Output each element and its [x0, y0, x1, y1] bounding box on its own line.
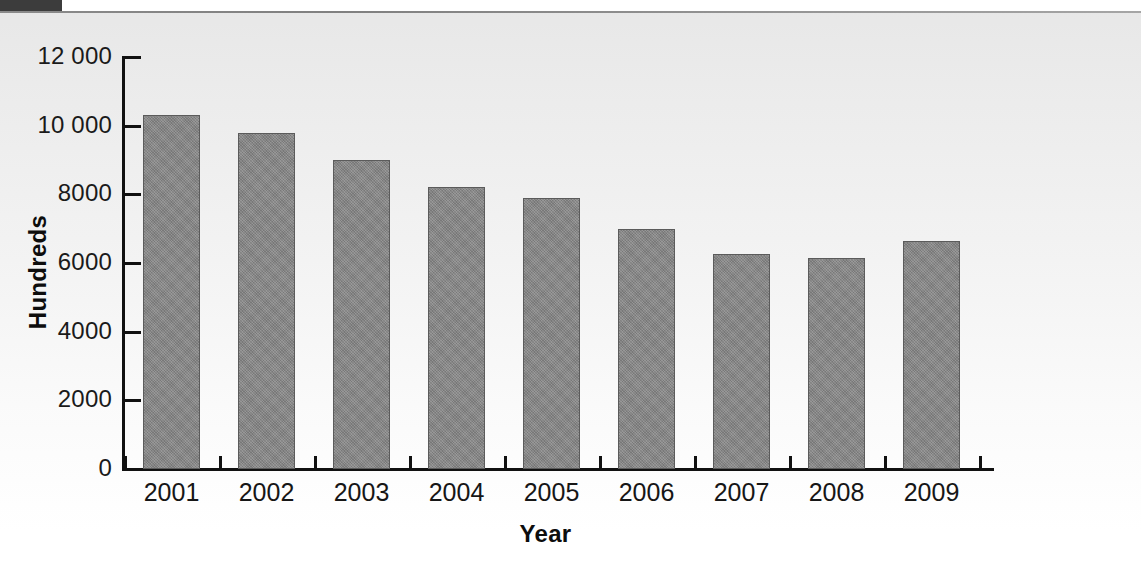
bar — [808, 258, 865, 469]
x-axis-tick — [314, 456, 317, 469]
bar-chart-plot: 0200040006000800010 00012 000 2001200220… — [0, 0, 1141, 577]
y-axis-tick — [125, 125, 141, 128]
bar — [428, 187, 485, 469]
x-axis-tick — [694, 456, 697, 469]
y-axis-tick — [125, 468, 141, 471]
y-axis-tick — [125, 56, 141, 59]
bar — [523, 198, 580, 469]
x-axis-tick — [884, 456, 887, 469]
y-axis-tick-label: 2000 — [12, 385, 112, 413]
bar — [618, 229, 675, 469]
y-axis-tick-label: 10 000 — [12, 111, 112, 139]
y-axis-tick — [125, 262, 141, 265]
x-axis-tick — [979, 456, 982, 469]
y-axis-title: Hundreds — [24, 172, 52, 372]
x-axis-tick — [599, 456, 602, 469]
chart-page: 0200040006000800010 00012 000 2001200220… — [0, 0, 1141, 577]
bar — [333, 160, 390, 469]
y-axis-tick — [125, 193, 141, 196]
y-axis-tick — [125, 331, 141, 334]
x-axis-title-text: Year — [520, 520, 572, 548]
x-axis-tick-label: 2009 — [872, 478, 992, 507]
bar — [238, 133, 295, 469]
y-axis-tick — [125, 399, 141, 402]
x-axis-tick — [789, 456, 792, 469]
x-axis-tick — [219, 456, 222, 469]
x-axis-tick — [409, 456, 412, 469]
bar — [143, 115, 200, 469]
y-axis-tick-label: 12 000 — [12, 42, 112, 70]
x-axis-tick — [504, 456, 507, 469]
bar — [713, 254, 770, 469]
bar — [903, 241, 960, 469]
x-axis-tick — [124, 456, 127, 469]
x-axis-title: Year — [0, 520, 1141, 548]
y-axis-tick-label: 0 — [12, 454, 112, 482]
